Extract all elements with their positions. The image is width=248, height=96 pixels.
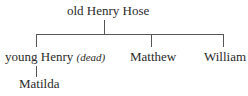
connector-sibling-bar — [36, 34, 224, 35]
connector-matthew — [151, 34, 152, 47]
node-matthew: Matthew — [130, 50, 176, 64]
connector-william — [223, 34, 224, 47]
node-young-henry: young Henry (dead) — [5, 50, 105, 64]
node-william: William — [204, 50, 246, 64]
node-old-henry-hose: old Henry Hose — [67, 4, 149, 18]
node-matilda: Matilda — [19, 77, 59, 91]
connector-young-henry — [36, 34, 37, 47]
young-henry-note: (dead) — [77, 51, 106, 63]
young-henry-label: young Henry — [5, 49, 73, 64]
connector-root-stem — [104, 20, 105, 34]
